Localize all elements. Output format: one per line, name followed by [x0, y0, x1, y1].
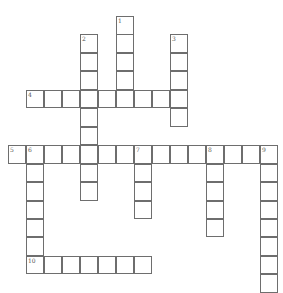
crossword-cell[interactable]: 8: [206, 145, 224, 164]
crossword-cell[interactable]: [170, 53, 188, 72]
crossword-cell[interactable]: [116, 53, 134, 72]
crossword-cell[interactable]: [260, 237, 278, 256]
crossword-cell[interactable]: [134, 201, 152, 220]
crossword-cell[interactable]: [80, 127, 98, 146]
crossword-cell[interactable]: [26, 237, 44, 256]
crossword-cell[interactable]: 6: [26, 145, 44, 164]
crossword-cell[interactable]: [134, 164, 152, 183]
crossword-cell[interactable]: [98, 90, 116, 109]
clue-number: 2: [82, 35, 86, 42]
crossword-cell[interactable]: [80, 145, 98, 164]
crossword-cell[interactable]: [116, 71, 134, 90]
crossword-cell[interactable]: [116, 145, 134, 164]
crossword-cell[interactable]: [134, 182, 152, 201]
crossword-cell[interactable]: [170, 71, 188, 90]
crossword-cell[interactable]: [80, 53, 98, 72]
crossword-cell[interactable]: [206, 201, 224, 220]
crossword-cell[interactable]: [44, 145, 62, 164]
clue-number: 10: [28, 257, 36, 264]
crossword-cell[interactable]: [134, 90, 152, 109]
crossword-cell[interactable]: [26, 201, 44, 220]
crossword-cell[interactable]: 9: [260, 145, 278, 164]
crossword-cell[interactable]: [206, 219, 224, 238]
crossword-cell[interactable]: [26, 219, 44, 238]
crossword-cell[interactable]: [152, 145, 170, 164]
crossword-cell[interactable]: [80, 256, 98, 275]
crossword-cell[interactable]: [44, 256, 62, 275]
crossword-cell[interactable]: [170, 108, 188, 127]
crossword-cell[interactable]: 1: [116, 16, 134, 35]
crossword-cell[interactable]: [116, 34, 134, 53]
crossword-cell[interactable]: [116, 90, 134, 109]
crossword-cell[interactable]: [206, 164, 224, 183]
crossword-cell[interactable]: [116, 256, 134, 275]
crossword-cell[interactable]: [80, 182, 98, 201]
clue-number: 8: [208, 146, 212, 153]
crossword-cell[interactable]: 2: [80, 34, 98, 53]
crossword-cell[interactable]: 5: [8, 145, 26, 164]
crossword-cell[interactable]: [260, 201, 278, 220]
crossword-cell[interactable]: [188, 145, 206, 164]
crossword-cell[interactable]: [206, 182, 224, 201]
crossword-cell[interactable]: [62, 256, 80, 275]
crossword-cell[interactable]: [152, 90, 170, 109]
crossword-cell[interactable]: 7: [134, 145, 152, 164]
crossword-cell[interactable]: [98, 256, 116, 275]
crossword-cell[interactable]: [62, 90, 80, 109]
crossword-cell[interactable]: [260, 256, 278, 275]
crossword-cell[interactable]: 10: [26, 256, 44, 275]
clue-number: 7: [136, 146, 140, 153]
crossword-cell[interactable]: [260, 182, 278, 201]
crossword-cell[interactable]: [260, 219, 278, 238]
crossword-cell[interactable]: [62, 145, 80, 164]
crossword-cell[interactable]: [134, 256, 152, 275]
clue-number: 3: [172, 35, 176, 42]
clue-number: 4: [28, 91, 32, 98]
crossword-cell[interactable]: [80, 164, 98, 183]
crossword-cell[interactable]: [26, 182, 44, 201]
clue-number: 6: [28, 146, 32, 153]
crossword-cell[interactable]: 4: [26, 90, 44, 109]
crossword-cell[interactable]: [170, 145, 188, 164]
crossword-cell[interactable]: [170, 90, 188, 109]
crossword-cell[interactable]: [80, 90, 98, 109]
crossword-cell[interactable]: [44, 90, 62, 109]
crossword-cell[interactable]: [26, 164, 44, 183]
clue-number: 9: [262, 146, 266, 153]
crossword-cell[interactable]: [80, 71, 98, 90]
crossword-cell[interactable]: [224, 145, 242, 164]
crossword-cell[interactable]: [80, 108, 98, 127]
crossword-cell[interactable]: 3: [170, 34, 188, 53]
crossword-cell[interactable]: [260, 164, 278, 183]
crossword-cell[interactable]: [242, 145, 260, 164]
clue-number: 5: [10, 146, 14, 153]
crossword-cell[interactable]: [260, 274, 278, 293]
crossword-cell[interactable]: [98, 145, 116, 164]
clue-number: 1: [118, 17, 122, 24]
